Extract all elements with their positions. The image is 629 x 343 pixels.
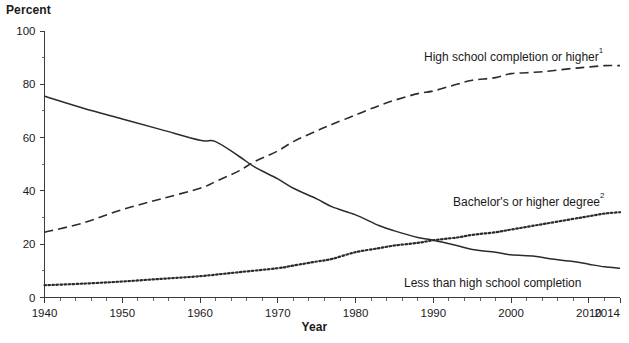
x-tick-label: 1990 [421,307,447,319]
series-annotation-label: Less than high school completion [404,276,581,290]
series-line-dotted [45,212,621,285]
chart-axes [40,31,621,303]
series-annotation-label: High school completion or higher1 [424,46,604,65]
series-line-solid [45,96,621,268]
series-annotation-label: Bachelor's or higher degree2 [453,191,605,210]
y-tick-label: 0 [29,292,35,304]
axis-lines [45,31,621,298]
y-tick-label: 100 [16,25,35,37]
x-tick-label: 1950 [109,307,135,319]
x-tick-label: 1940 [32,307,58,319]
y-axis-title: Percent [6,3,51,17]
x-tick-label: 1970 [265,307,291,319]
x-tick-label: 2014 [594,307,620,319]
y-tick-label: 40 [23,185,36,197]
x-axis-title: Year [0,320,629,334]
x-tick-label: 1960 [187,307,213,319]
x-tick-label: 1980 [343,307,369,319]
line-chart-plot: 020406080100 194019501960197019801990200… [0,0,629,343]
x-axis-tick-labels: 194019501960197019801990200020102014 [32,307,621,319]
y-axis-tick-labels: 020406080100 [16,25,35,304]
y-tick-label: 60 [23,132,36,144]
x-tick-label: 2000 [498,307,524,319]
y-tick-label: 20 [23,238,36,250]
data-series-group [45,66,621,286]
chart-container: Percent 020406080100 1940195019601970198… [0,0,629,343]
y-tick-label: 80 [23,78,36,90]
